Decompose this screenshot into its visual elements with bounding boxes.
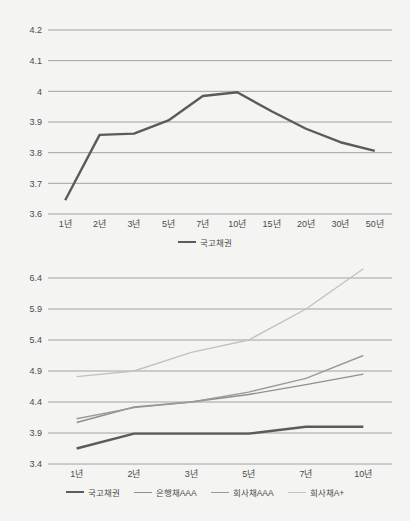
y-axis-tick-label: 3.6	[29, 209, 42, 219]
x-axis-tick-label: 3년	[127, 219, 140, 229]
y-axis-tick-label: 3.7	[29, 179, 42, 189]
legend-line-swatch	[66, 491, 84, 493]
x-axis-tick-label: 7년	[299, 469, 312, 479]
legend-line-swatch	[134, 492, 152, 493]
y-axis-tick-label: 4	[37, 87, 42, 97]
y-axis-tick-label: 5.4	[29, 335, 42, 345]
legend-item[interactable]: 회사채A+	[288, 486, 345, 498]
y-axis-tick-label: 4.4	[29, 397, 42, 407]
legend-item[interactable]: 회사채AAA	[211, 486, 274, 498]
y-axis-tick-label: 6.4	[29, 273, 42, 283]
series-line	[77, 356, 364, 419]
x-axis-tick-label: 7년	[196, 219, 209, 229]
series-line	[77, 269, 364, 377]
x-axis-tick-label: 50년	[366, 219, 384, 229]
chart-top-plot: 3.63.73.83.944.14.21년2년3년5년7년10년15년20년30…	[0, 0, 410, 236]
x-axis-tick-label: 1년	[70, 469, 83, 479]
y-axis-tick-label: 3.8	[29, 148, 42, 158]
legend-item[interactable]: 국고채권	[178, 236, 232, 248]
chart-bottom-legend: 국고채권은행채AAA회사채AAA회사채A+	[0, 486, 410, 498]
x-axis-tick-label: 15년	[263, 219, 281, 229]
legend-label: 회사채AAA	[233, 486, 274, 498]
series-line	[77, 374, 364, 422]
series-line	[65, 92, 375, 200]
x-axis-tick-label: 5년	[162, 219, 175, 229]
legend-line-swatch	[178, 241, 196, 243]
x-axis-tick-label: 2년	[127, 469, 140, 479]
y-axis-tick-label: 4.2	[29, 25, 42, 35]
x-axis-tick-label: 30년	[331, 219, 349, 229]
chart-bottom-plot: 3.43.94.44.95.45.96.41년2년3년5년7년10년	[0, 256, 410, 486]
legend-label: 국고채권	[200, 236, 232, 248]
x-axis-tick-label: 1년	[59, 219, 72, 229]
legend-line-swatch	[211, 492, 229, 493]
x-axis-tick-label: 20년	[297, 219, 315, 229]
chart-top-legend: 국고채권	[0, 236, 410, 248]
chart-treasury-yield-curve: 3.63.73.83.944.14.21년2년3년5년7년10년15년20년30…	[0, 0, 410, 256]
legend-label: 은행채AAA	[156, 486, 197, 498]
x-axis-tick-label: 2년	[93, 219, 106, 229]
y-axis-tick-label: 4.1	[29, 56, 42, 66]
legend-item[interactable]: 은행채AAA	[134, 486, 197, 498]
x-axis-tick-label: 3년	[185, 469, 198, 479]
legend-label: 회사채A+	[310, 486, 345, 498]
y-axis-tick-label: 3.9	[29, 428, 42, 438]
y-axis-tick-label: 3.4	[29, 459, 42, 469]
chart-credit-curves: 3.43.94.44.95.45.96.41년2년3년5년7년10년	[0, 256, 410, 521]
legend-line-swatch	[288, 492, 306, 493]
legend-item[interactable]: 국고채권	[66, 486, 120, 498]
chart-page: 3.63.73.83.944.14.21년2년3년5년7년10년15년20년30…	[0, 0, 410, 521]
series-line	[77, 427, 364, 449]
legend-label: 국고채권	[88, 486, 120, 498]
y-axis-tick-label: 3.9	[29, 117, 42, 127]
x-axis-tick-label: 10년	[354, 469, 372, 479]
x-axis-tick-label: 5년	[242, 469, 255, 479]
y-axis-tick-label: 4.9	[29, 366, 42, 376]
x-axis-tick-label: 10년	[228, 219, 246, 229]
y-axis-tick-label: 5.9	[29, 304, 42, 314]
